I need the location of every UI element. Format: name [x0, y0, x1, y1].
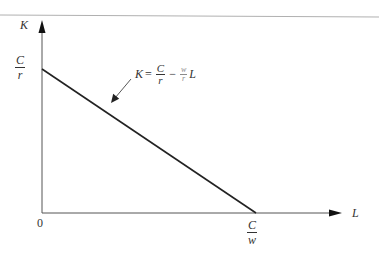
- isocost-diagram: [0, 0, 379, 255]
- equation-pointer: [115, 79, 131, 98]
- equation-term1: C r: [156, 63, 165, 86]
- equation-term2: w r: [180, 66, 187, 83]
- pointer-arrowhead-icon: [111, 94, 119, 103]
- isocost-line: [42, 69, 256, 213]
- x-intercept-denominator: w: [247, 233, 257, 246]
- y-axis-arrow-icon: [39, 20, 46, 33]
- x-intercept-label: C w: [247, 219, 257, 246]
- equation-lhs: K: [135, 67, 143, 82]
- equation-term1-denominator: r: [158, 75, 162, 86]
- isocost-equation: K = C r − w r L: [135, 63, 196, 86]
- x-axis-label: L: [352, 207, 359, 219]
- equation-variable: L: [189, 67, 196, 82]
- y-intercept-label: C r: [15, 54, 25, 81]
- equation-term2-denominator: r: [182, 75, 185, 83]
- equation-equals: =: [145, 67, 152, 82]
- y-intercept-numerator: C: [15, 54, 25, 68]
- top-rule: [0, 15, 379, 17]
- x-intercept-numerator: C: [247, 219, 257, 233]
- x-axis-arrow-icon: [329, 210, 342, 217]
- y-axis-label: K: [20, 19, 28, 31]
- equation-minus: −: [169, 67, 176, 82]
- origin-label: 0: [37, 216, 43, 231]
- y-intercept-denominator: r: [15, 68, 25, 81]
